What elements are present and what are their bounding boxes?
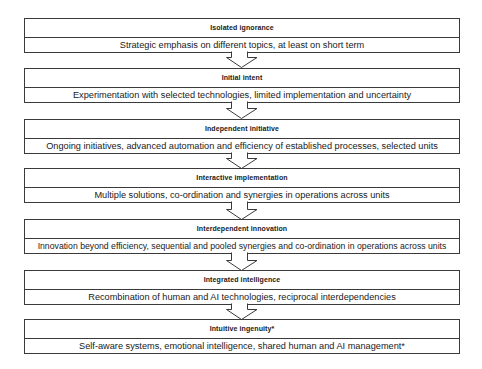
down-arrow-icon [226, 303, 258, 320]
stage-title: Independent initiative [25, 120, 459, 139]
stage-box-1: Isolated ignorance Strategic emphasis on… [24, 18, 460, 53]
stage-description: Strategic emphasis on different topics, … [25, 38, 459, 52]
down-arrow-icon [226, 152, 258, 169]
stage-description: Innovation beyond efficiency, sequential… [25, 239, 459, 253]
stage-description: Recombination of human and AI technologi… [25, 290, 459, 304]
down-arrow-icon [226, 101, 258, 118]
stage-box-4: Interactive implementation Multiple solu… [24, 168, 460, 203]
stage-title: Interdependent innovation [25, 220, 459, 239]
stage-box-6: Integrated intelligence Recombination of… [24, 270, 460, 305]
stage-title: Initial intent [25, 69, 459, 88]
stage-box-5: Interdependent innovation Innovation bey… [24, 219, 460, 254]
stage-description: Ongoing initiatives, advanced automation… [25, 139, 459, 153]
down-arrow-icon [226, 201, 258, 218]
down-arrow-icon [226, 252, 258, 269]
stage-title: Intuitive ingenuity* [25, 320, 459, 339]
stage-box-3: Independent initiative Ongoing initiativ… [24, 119, 460, 154]
stage-title: Isolated ignorance [25, 19, 459, 38]
stage-box-2: Initial intent Experimentation with sele… [24, 68, 460, 103]
down-arrow-icon [226, 51, 258, 68]
stage-box-7: Intuitive ingenuity* Self-aware systems,… [24, 319, 460, 354]
stage-description: Experimentation with selected technologi… [25, 88, 459, 102]
stage-description: Self-aware systems, emotional intelligen… [25, 339, 459, 353]
stage-title: Integrated intelligence [25, 271, 459, 290]
stage-description: Multiple solutions, co-ordination and sy… [25, 188, 459, 202]
stage-title: Interactive implementation [25, 169, 459, 188]
